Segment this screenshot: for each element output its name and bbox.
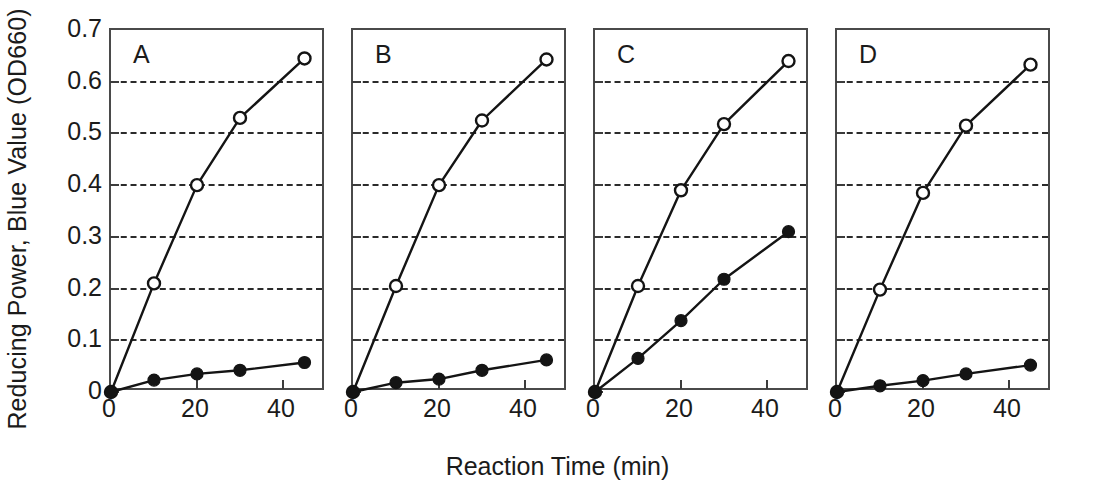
y-axis-tick-label: 0.7 (67, 17, 102, 39)
data-point-filled-circle (917, 375, 929, 387)
y-axis-tick-label: 0.3 (67, 224, 102, 246)
y-axis-title: Reducing Power, Blue Value (OD660) (0, 24, 34, 414)
data-point-filled-circle (433, 373, 445, 385)
x-axis-tick-label: 20 (181, 394, 209, 423)
x-axis-tick-label: 40 (267, 394, 295, 423)
y-axis-tick-label: 0.6 (67, 69, 102, 91)
data-point-filled-circle (632, 352, 644, 364)
figure-canvas: Reducing Power, Blue Value (OD660) 00.10… (0, 0, 1115, 488)
series-line-filled-circle (111, 363, 305, 392)
x-axis-tick-label: 40 (751, 394, 779, 423)
data-point-filled-circle (783, 226, 795, 238)
data-point-open-circle (675, 184, 687, 196)
data-point-filled-circle (191, 368, 203, 380)
data-point-open-circle (191, 179, 203, 191)
data-point-filled-circle (299, 357, 311, 369)
data-point-filled-circle (390, 377, 402, 389)
x-axis-tick-label: 0 (102, 394, 116, 423)
x-axis-tick-label: 40 (509, 394, 537, 423)
data-point-open-circle (917, 187, 929, 199)
x-axis-title: Reaction Time (min) (0, 452, 1115, 481)
data-series-layer (837, 30, 1052, 392)
series-line-open-circle (595, 61, 789, 392)
data-series-layer (111, 30, 326, 392)
data-point-open-circle (783, 55, 795, 67)
data-point-filled-circle (1025, 359, 1037, 371)
plot-panel-b: B (351, 28, 566, 390)
x-axis-tick-label: 20 (423, 394, 451, 423)
series-line-open-circle (111, 58, 305, 392)
x-axis-tick-label: 0 (344, 394, 358, 423)
data-point-open-circle (433, 179, 445, 191)
y-axis-tick-label: 0.2 (67, 276, 102, 298)
data-point-filled-circle (960, 368, 972, 380)
series-line-open-circle (837, 65, 1031, 392)
data-point-open-circle (234, 112, 246, 124)
data-point-open-circle (390, 280, 402, 292)
data-point-filled-circle (718, 273, 730, 285)
plot-panel-d: D (835, 28, 1050, 390)
series-line-filled-circle (595, 232, 789, 392)
y-axis-tick-label: 0.1 (67, 327, 102, 349)
data-point-filled-circle (541, 354, 553, 366)
data-point-open-circle (541, 53, 553, 65)
x-axis-tick-label: 20 (907, 394, 935, 423)
series-line-filled-circle (353, 360, 547, 392)
plot-area: A (111, 30, 322, 388)
data-point-filled-circle (234, 364, 246, 376)
data-point-open-circle (1025, 59, 1037, 71)
y-axis-tick-label: 0.5 (67, 120, 102, 142)
data-series-layer (595, 30, 810, 392)
data-point-open-circle (960, 120, 972, 132)
x-axis-tick-label: 40 (993, 394, 1021, 423)
data-point-open-circle (476, 115, 488, 127)
data-point-open-circle (148, 277, 160, 289)
plot-area: D (837, 30, 1048, 388)
data-point-open-circle (632, 280, 644, 292)
data-point-open-circle (718, 118, 730, 130)
data-point-filled-circle (476, 364, 488, 376)
data-point-filled-circle (874, 380, 886, 392)
data-point-filled-circle (148, 374, 160, 386)
plot-panel-c: C (593, 28, 808, 390)
data-point-filled-circle (675, 315, 687, 327)
plot-area: B (353, 30, 564, 388)
series-line-filled-circle (837, 365, 1031, 392)
x-axis-tick-label: 0 (828, 394, 842, 423)
data-point-open-circle (299, 52, 311, 64)
series-line-open-circle (353, 59, 547, 392)
plot-panel-a: A (109, 28, 324, 390)
y-axis-tick-label: 0.4 (67, 172, 102, 194)
y-axis-tick-label: 0 (88, 379, 102, 401)
x-axis-tick-label: 0 (586, 394, 600, 423)
x-axis-tick-label: 20 (665, 394, 693, 423)
y-axis-tick-labels: 00.10.20.30.40.50.60.7 (44, 0, 102, 488)
data-series-layer (353, 30, 568, 392)
data-point-open-circle (874, 284, 886, 296)
plot-area: C (595, 30, 806, 388)
